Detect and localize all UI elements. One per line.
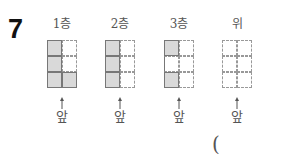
- grid-cell: [222, 56, 237, 72]
- grid-cell: [237, 56, 252, 72]
- grid-cell: [120, 56, 135, 72]
- grid-cell: [179, 40, 194, 56]
- grid-cell: [105, 56, 120, 72]
- problem-number: 7: [8, 14, 23, 45]
- up-arrow-icon: [57, 94, 67, 106]
- grid-cell: [62, 72, 77, 88]
- grid-cell: [47, 56, 62, 72]
- front-label: 앞: [105, 106, 135, 125]
- grid-cell: [120, 40, 135, 56]
- view-label: 2층: [100, 14, 140, 31]
- grid-cell: [222, 40, 237, 56]
- grid-cell: [164, 40, 179, 56]
- view-label: 1층: [42, 14, 82, 31]
- grid-cell: [47, 40, 62, 56]
- grid-cell: [237, 40, 252, 56]
- front-label: 앞: [164, 106, 194, 125]
- grid-cell: [105, 40, 120, 56]
- up-arrow-icon: [174, 94, 184, 106]
- grid-cell: [47, 72, 62, 88]
- front-label: 앞: [47, 106, 77, 125]
- grid-cell: [164, 56, 179, 72]
- grid-cell: [179, 72, 194, 88]
- grid-cell: [62, 56, 77, 72]
- up-arrow-icon: [115, 94, 125, 106]
- grid-cell: [120, 72, 135, 88]
- grid-cell: [237, 72, 252, 88]
- view-grid: [47, 40, 77, 88]
- grid-cell: [62, 40, 77, 56]
- view-label: 위: [217, 14, 257, 31]
- view-grid: [105, 40, 135, 88]
- grid-cell: [179, 56, 194, 72]
- up-arrow-icon: [232, 94, 242, 106]
- view-label: 3층: [159, 14, 199, 31]
- answer-bracket[interactable]: (: [212, 132, 220, 154]
- front-label: 앞: [222, 106, 252, 125]
- grid-cell: [105, 72, 120, 88]
- grid-cell: [164, 72, 179, 88]
- view-grid: [222, 40, 252, 88]
- view-grid: [164, 40, 194, 88]
- grid-cell: [222, 72, 237, 88]
